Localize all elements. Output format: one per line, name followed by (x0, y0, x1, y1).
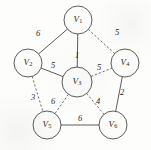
edge-weight-v5-v6: 6 (78, 114, 82, 123)
graph-edge-v1-v4 (88, 29, 114, 53)
node-letter: V (121, 57, 127, 67)
node-letter: V (43, 119, 49, 129)
node-letter: V (109, 119, 115, 129)
nodes-layer (14, 6, 139, 139)
graph-figure: V1V2V3V4V5V66515536426 (0, 0, 151, 150)
graph-edge-v1-v2 (39, 29, 68, 54)
graph-edge-v3-v5 (55, 94, 68, 113)
edge-weight-v2-v3: 5 (51, 61, 55, 70)
edge-weight-v2-v5: 3 (31, 93, 35, 102)
node-letter: V (74, 14, 80, 24)
node-label-v1: V1 (74, 15, 83, 24)
edge-weight-v3-v6: 4 (96, 97, 100, 106)
node-letter: V (73, 76, 79, 86)
node-label-v4: V4 (121, 58, 130, 67)
graph-edge-v3-v4 (91, 68, 112, 76)
edge-weight-v1-v3: 1 (75, 51, 79, 60)
node-label-v2: V2 (24, 58, 33, 67)
edge-weight-v4-v6: 2 (120, 88, 124, 97)
edge-weight-v3-v4: 5 (97, 63, 101, 72)
node-subscript: 2 (29, 60, 32, 67)
node-label-v5: V5 (43, 120, 52, 129)
node-label-v3: V3 (73, 77, 82, 86)
node-subscript: 1 (79, 17, 82, 24)
edge-weight-v1-v2: 6 (36, 29, 40, 38)
node-subscript: 3 (78, 79, 81, 86)
node-subscript: 5 (48, 122, 51, 129)
edge-weight-v1-v4: 5 (115, 28, 119, 37)
node-subscript: 6 (114, 122, 117, 129)
node-subscript: 4 (126, 60, 129, 67)
node-letter: V (24, 57, 30, 67)
node-label-v6: V6 (109, 120, 118, 129)
edge-weight-v3-v5: 6 (51, 97, 55, 106)
